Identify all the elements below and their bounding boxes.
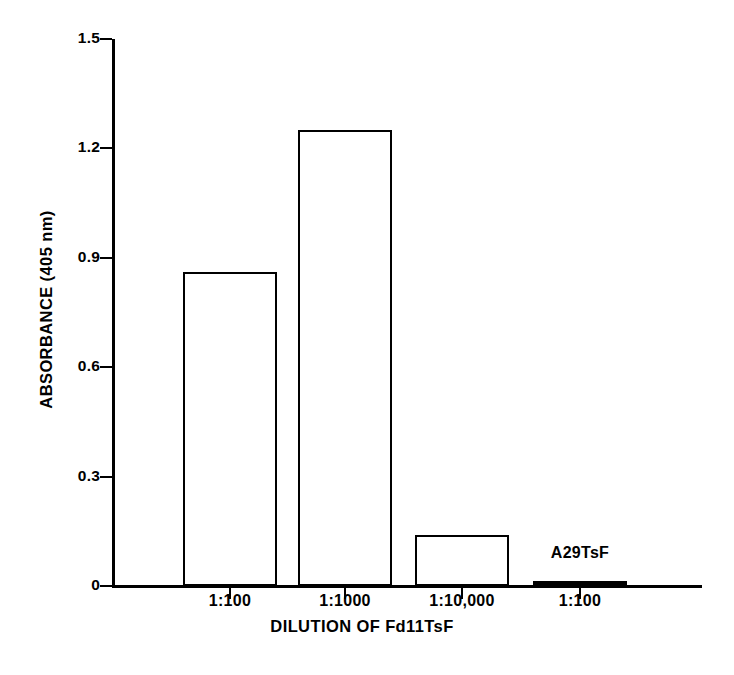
y-axis-tick-label: 0.6	[40, 357, 100, 375]
chart-figure: ABSORBANCE (405 nm) 1.51.20.90.60.30 A29…	[0, 0, 734, 675]
bar	[183, 272, 277, 586]
y-axis-tick	[100, 476, 112, 478]
y-axis-title: ABSORBANCE (405 nm)	[37, 160, 56, 460]
y-axis-tick	[100, 585, 112, 587]
y-axis-tick-label: 1.2	[40, 138, 100, 156]
bar	[415, 535, 509, 586]
y-axis-tick	[100, 366, 112, 368]
y-axis-tick-label: 0.9	[40, 248, 100, 266]
x-axis-tick-label: 1:100	[510, 592, 650, 610]
x-axis-title: DILUTION OF Fd11TsF	[112, 617, 612, 636]
y-axis-tick-label: 1.5	[40, 29, 100, 47]
x-axis-line	[112, 585, 702, 588]
y-axis-line	[112, 39, 115, 588]
y-axis-tick	[100, 38, 112, 40]
bar-annotation: A29TsF	[500, 544, 660, 562]
y-axis-tick	[100, 147, 112, 149]
y-axis-tick-label: 0	[40, 576, 100, 594]
bar	[298, 130, 392, 586]
y-axis-tick	[100, 257, 112, 259]
y-axis-tick-label: 0.3	[40, 467, 100, 485]
